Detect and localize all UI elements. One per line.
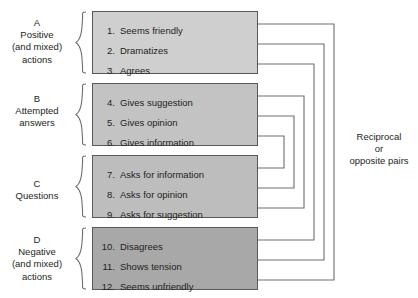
connector-pair-5-8 bbox=[258, 116, 294, 188]
connector-pair-1-12 bbox=[258, 24, 334, 280]
connector-pair-6-7 bbox=[258, 136, 284, 168]
reciprocal-caption-line-2: or bbox=[340, 143, 418, 155]
connector-pair-4-9 bbox=[258, 96, 304, 208]
connector-pair-3-10 bbox=[258, 64, 314, 240]
reciprocal-pairs-caption: Reciprocal or opposite pairs bbox=[340, 131, 418, 168]
ipa-category-diagram: A Positive (and mixed) actions B Attempt… bbox=[0, 0, 418, 298]
reciprocal-caption-line-3: opposite pairs bbox=[340, 155, 418, 167]
reciprocal-caption-line-1: Reciprocal bbox=[340, 131, 418, 143]
